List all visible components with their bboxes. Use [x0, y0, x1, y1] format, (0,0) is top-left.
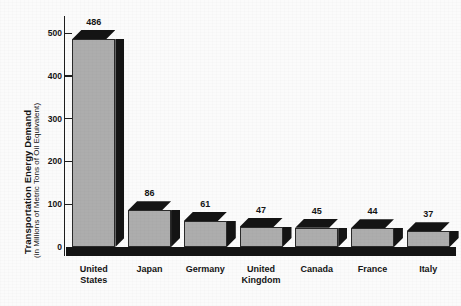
x-axis-label-united-kingdom: UnitedKingdom	[233, 264, 289, 286]
x-axis-label-line: France	[345, 264, 401, 275]
x-axis-label-italy: Italy	[400, 264, 456, 275]
x-axis-label-canada: Canada	[289, 264, 345, 275]
y-axis-tick-label: 100	[48, 198, 62, 210]
bar-top-face	[72, 30, 115, 39]
bar-italy[interactable]: 37	[407, 231, 450, 247]
bar-value-label: 44	[367, 206, 377, 216]
bar-value-label: 86	[145, 188, 155, 198]
bar-side-face	[450, 231, 459, 247]
bar-value-label: 37	[423, 209, 433, 219]
bar-japan[interactable]: 86	[128, 210, 171, 247]
bar-canada[interactable]: 45	[295, 228, 338, 247]
bar-front-face	[295, 228, 338, 247]
x-axis-label-line: United	[233, 264, 289, 275]
bar-front-face	[407, 231, 450, 247]
bar-side-face	[338, 228, 347, 247]
bar-top-face	[184, 212, 227, 221]
bar-top-face	[295, 219, 338, 228]
y-axis-tick-label: 400	[48, 70, 62, 82]
bar-chart-figure: Transportation Energy Demand (in Million…	[0, 0, 461, 306]
x-axis-labels: UnitedStatesJapanGermanyUnitedKingdomCan…	[66, 264, 456, 298]
x-axis-label-line: United	[66, 264, 122, 275]
y-axis-tick-label: 200	[48, 155, 62, 167]
x-axis-label-japan: Japan	[122, 264, 178, 275]
x-axis-label-line: Canada	[289, 264, 345, 275]
baseline-shadow	[66, 247, 456, 256]
bar-front-face	[128, 210, 171, 247]
bar-value-label: 47	[256, 205, 266, 215]
y-axis-tick-label: 300	[48, 113, 62, 125]
x-axis-label-line: Japan	[122, 264, 178, 275]
x-axis-label-line: States	[66, 275, 122, 286]
x-axis-label-line: Italy	[400, 264, 456, 275]
y-axis-tick-label: 0	[57, 241, 62, 253]
plot-area: 486866147454437	[66, 16, 456, 256]
bar-side-face	[115, 39, 124, 247]
x-axis-label-line: Kingdom	[233, 275, 289, 286]
y-axis-subtitle: (in Millions of Metric Tons of Oil Equiv…	[32, 103, 41, 258]
bar-front-face	[240, 227, 283, 247]
bar-germany[interactable]: 61	[184, 221, 227, 247]
bar-side-face	[394, 228, 403, 247]
bar-side-face	[171, 210, 180, 247]
bar-top-face	[240, 218, 283, 227]
bar-united-states[interactable]: 486	[72, 39, 115, 247]
bar-united-kingdom[interactable]: 47	[240, 227, 283, 247]
bar-france[interactable]: 44	[351, 228, 394, 247]
bar-value-label: 45	[312, 206, 322, 216]
bar-front-face	[351, 228, 394, 247]
x-axis-label-line: Germany	[177, 264, 233, 275]
x-axis-label-united-states: UnitedStates	[66, 264, 122, 286]
bar-value-label: 486	[86, 17, 101, 27]
bar-side-face	[227, 221, 236, 247]
bar-top-face	[128, 201, 171, 210]
bar-front-face	[72, 39, 115, 247]
x-axis-label-france: France	[345, 264, 401, 275]
bar-value-label: 61	[200, 199, 210, 209]
bar-top-face	[351, 219, 394, 228]
bar-front-face	[184, 221, 227, 247]
y-axis-title-group: Transportation Energy Demand (in Million…	[0, 0, 40, 262]
x-axis-label-germany: Germany	[177, 264, 233, 275]
y-axis-tick-label: 500	[48, 27, 62, 39]
bar-side-face	[283, 227, 292, 247]
bar-top-face	[407, 222, 450, 231]
